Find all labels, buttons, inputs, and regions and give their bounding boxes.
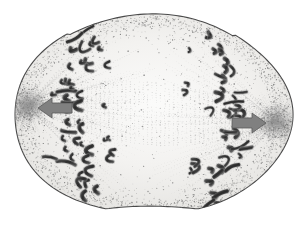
chromosome	[239, 154, 242, 158]
chromosome	[104, 139, 108, 141]
chromosome	[80, 61, 85, 64]
chromosome	[103, 104, 106, 107]
chromosome	[62, 131, 76, 133]
anaphase-figure: Anaphase of mitosis Light-micrograph sty…	[0, 0, 306, 228]
chromosome	[213, 49, 216, 54]
chromosome	[43, 157, 56, 160]
chromosome	[189, 48, 191, 52]
chromosome	[66, 120, 70, 125]
chromosome	[225, 101, 244, 103]
chromosome	[70, 48, 76, 51]
chromosome	[235, 92, 247, 93]
chromosome	[68, 64, 72, 70]
chromosome	[94, 186, 98, 193]
chromosome	[240, 148, 251, 150]
chromosome	[62, 136, 65, 141]
chromosome	[80, 142, 83, 146]
chromosome	[219, 49, 223, 54]
chromosome	[209, 33, 211, 37]
chromosome	[98, 47, 102, 50]
chromosome	[224, 66, 227, 73]
chromosome	[51, 93, 55, 95]
chromosome	[64, 147, 67, 151]
chromosome	[70, 87, 73, 89]
cell-illustration	[0, 0, 306, 228]
chromosome	[225, 132, 236, 133]
